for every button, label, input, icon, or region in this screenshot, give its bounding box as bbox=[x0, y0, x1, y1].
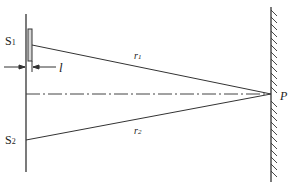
label-r1: r1 bbox=[134, 50, 141, 61]
thickness-dimension bbox=[4, 61, 56, 72]
ray-r1 bbox=[32, 45, 271, 94]
label-s2: S2 bbox=[5, 133, 16, 148]
ray-r2 bbox=[26, 94, 271, 140]
label-thickness: l bbox=[59, 60, 63, 76]
label-s1: S1 bbox=[5, 34, 16, 49]
diagram: S1 S2 l r1 r2 P bbox=[0, 0, 291, 188]
diagram-canvas bbox=[0, 0, 291, 188]
label-r2: r2 bbox=[134, 125, 141, 136]
glass-slab bbox=[28, 29, 32, 61]
label-p: P bbox=[280, 89, 287, 104]
screen-hatching bbox=[271, 10, 277, 177]
